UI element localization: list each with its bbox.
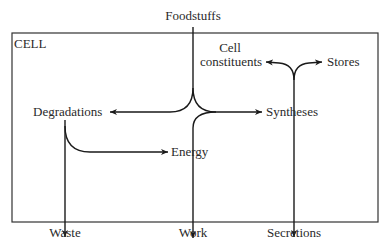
to-stores-arrow — [294, 62, 322, 80]
cell-boundary — [12, 33, 378, 222]
syntheses-node: Syntheses — [266, 105, 318, 119]
cell-constituents-line2: constituents — [200, 55, 262, 69]
to-syntheses-arrow — [193, 88, 262, 112]
to-energy-arrow — [65, 126, 168, 152]
waste-node: Waste — [49, 226, 80, 240]
stores-node: Stores — [327, 55, 360, 69]
degradations-node: Degradations — [33, 105, 102, 119]
to-cell-constituents-arrow — [266, 62, 294, 80]
foodstuffs-node: Foodstuffs — [165, 9, 220, 23]
cell-label: CELL — [14, 37, 47, 51]
secretions-node: Secretions — [267, 226, 321, 240]
diagram-lines — [0, 0, 386, 246]
cell-metabolism-diagram: CELL Foodstuffs Degradations Syntheses E… — [0, 0, 386, 246]
to-degradations-arrow — [110, 88, 193, 112]
cell-constituents-line1: Cell — [219, 41, 241, 55]
work-node: Work — [179, 226, 208, 240]
energy-node: Energy — [171, 145, 208, 159]
